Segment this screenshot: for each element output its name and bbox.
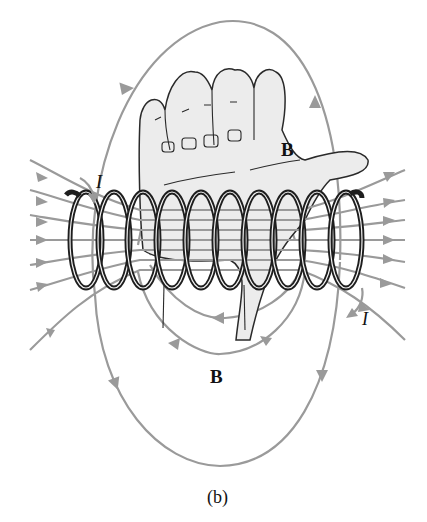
field-label-bottom: B	[210, 366, 223, 387]
field-label-top: B	[281, 139, 294, 160]
current-label-left: I	[95, 172, 103, 192]
figure-caption: (b)	[207, 487, 228, 508]
solenoid-diagram: B B I I (b)	[0, 0, 427, 522]
current-label-right: I	[361, 309, 369, 329]
